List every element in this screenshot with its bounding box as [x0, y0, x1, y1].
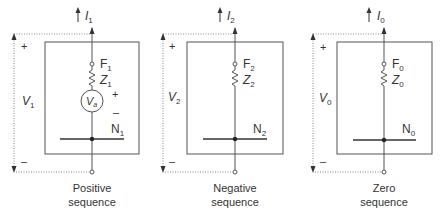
reference-terminal	[233, 170, 237, 174]
caption-line1: Zero	[373, 182, 396, 194]
voltage-label: V0	[319, 91, 332, 107]
reference-terminal	[90, 170, 94, 174]
caption-line2: sequence	[68, 196, 116, 208]
current-arrowhead-icon	[76, 7, 81, 13]
voltage-arrow-down-icon	[12, 166, 17, 173]
fault-node-label: F0	[392, 57, 404, 73]
minus-sign: –	[21, 155, 28, 167]
terminal-arrowhead-icon	[382, 27, 387, 34]
caption-line2: sequence	[360, 196, 408, 208]
terminal-arrowhead-icon	[90, 27, 95, 34]
source-plus-sign: +	[112, 88, 118, 100]
voltage-label: V2	[168, 90, 181, 106]
impedance-label: Z2	[242, 73, 255, 89]
sequence-networks-diagram: I1 + – V1 F1 Z1 Va + – N1 Positive seque…	[0, 0, 445, 213]
terminal-arrowhead-icon	[233, 27, 238, 34]
current-label: I2	[227, 9, 235, 25]
plus-sign: +	[21, 40, 27, 52]
fault-node-terminal	[382, 62, 386, 66]
fault-node-label: F2	[243, 57, 255, 73]
bus-junction-dot	[90, 137, 94, 141]
impedance-resistor-icon	[381, 66, 387, 90]
voltage-label: V1	[22, 94, 35, 110]
fault-node-terminal	[233, 62, 237, 66]
plus-sign: +	[169, 40, 175, 52]
minus-sign: –	[169, 155, 176, 167]
current-arrowhead-icon	[218, 7, 223, 13]
neutral-label: N2	[253, 122, 267, 138]
voltage-arrow-down-icon	[161, 166, 166, 173]
caption-line1: Positive	[73, 182, 112, 194]
neutral-label: N1	[111, 122, 125, 138]
zero-sequence-network: I0 + – V0 F0 Z0 N0 Zero sequence	[311, 7, 433, 208]
impedance-resistor-icon	[232, 66, 238, 90]
source-minus-sign: –	[113, 106, 120, 118]
neutral-label: N0	[402, 122, 416, 138]
impedance-label: Z1	[99, 73, 112, 89]
current-arrowhead-icon	[367, 7, 372, 13]
caption-line2: sequence	[211, 196, 259, 208]
bus-junction-dot	[233, 137, 237, 141]
plus-sign: +	[320, 41, 326, 53]
current-label: I1	[85, 9, 93, 25]
impedance-resistor-icon	[89, 66, 95, 90]
positive-sequence-network: I1 + – V1 F1 Z1 Va + – N1 Positive seque…	[12, 7, 140, 208]
impedance-label: Z0	[391, 73, 404, 89]
fault-node-terminal	[90, 62, 94, 66]
reference-terminal	[382, 170, 386, 174]
voltage-arrow-up-icon	[12, 33, 17, 40]
voltage-arrow-up-icon	[311, 33, 316, 40]
fault-node-label: F1	[100, 57, 112, 73]
voltage-arrow-up-icon	[161, 33, 166, 40]
caption-line1: Negative	[213, 182, 256, 194]
voltage-arrow-down-icon	[311, 166, 316, 173]
current-label: I0	[377, 9, 385, 25]
bus-junction-dot	[382, 138, 386, 142]
negative-sequence-network: I2 + – V2 F2 Z2 N2 Negative sequence	[161, 7, 284, 208]
minus-sign: –	[320, 155, 327, 167]
